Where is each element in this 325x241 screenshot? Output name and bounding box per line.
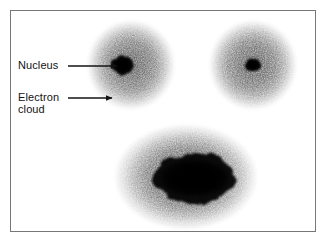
nucleus-core-top-right: [248, 60, 258, 70]
atomic-structure-figure: Nucleus Electron cloud: [0, 0, 325, 241]
nucleus-label: Nucleus: [18, 59, 58, 71]
atom-diagram-canvas: [0, 0, 325, 241]
electron-cloud-label: Electron cloud: [18, 91, 59, 115]
atom-top-left: [86, 19, 176, 111]
atom-top-right: [208, 19, 298, 111]
atom-bottom: [113, 123, 259, 231]
nucleus-core-bottom: [159, 159, 231, 197]
nucleus-core-top-left: [116, 59, 131, 72]
